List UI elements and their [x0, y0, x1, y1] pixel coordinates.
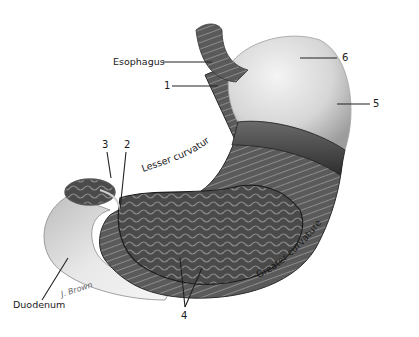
label-2: 2	[124, 140, 130, 150]
stomach-illustration: Lesser curvature Greater curvature J. Br…	[0, 0, 419, 337]
label-1: 1	[164, 81, 170, 91]
label-esophagus: Esophagus	[113, 57, 165, 67]
esophagus-shape	[196, 24, 248, 82]
label-5: 5	[373, 99, 379, 109]
label-4: 4	[181, 311, 187, 321]
label-duodenum: Duodenum	[13, 300, 65, 310]
label-3: 3	[102, 140, 108, 150]
label-6: 6	[342, 53, 348, 63]
artist-signature: J. Brown	[58, 280, 94, 299]
stomach-diagram: Lesser curvature Greater curvature J. Br…	[0, 0, 419, 337]
